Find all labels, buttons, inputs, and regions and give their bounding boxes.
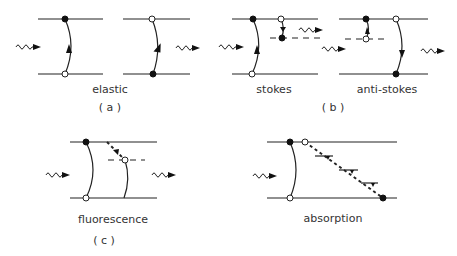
- transition-curve: [152, 19, 158, 74]
- open-state-dot: [149, 16, 155, 22]
- incoming-photon-wave-icon: [219, 44, 244, 50]
- outgoing-photon-wave-icon: [176, 45, 200, 51]
- anti-stokes-diagram: [322, 16, 445, 77]
- outgoing-photon-wave-icon: [152, 172, 176, 178]
- arrow-down-icon: [113, 149, 119, 155]
- filled-state-dot: [380, 195, 386, 201]
- stokes-diagram: [219, 16, 323, 77]
- open-state-dot: [122, 157, 128, 163]
- filled-state-dot: [279, 35, 285, 41]
- phonon-step-2: [339, 170, 358, 174]
- filled-state-dot: [62, 16, 68, 22]
- arrow-down-icon: [399, 50, 405, 58]
- transition-curve: [65, 19, 71, 74]
- open-state-dot: [62, 71, 68, 77]
- incoming-photon-wave-icon: [253, 173, 277, 179]
- stokes-label: stokes: [256, 83, 292, 96]
- filled-state-dot: [363, 16, 369, 22]
- incoming-photon-wave-icon: [16, 44, 41, 50]
- scattering-diagram-figure: elastic ( a ): [0, 0, 457, 256]
- emission-curve: [124, 160, 128, 198]
- filled-state-dot: [83, 139, 89, 145]
- absorption-diagram: [253, 139, 397, 201]
- panel-a-tag: ( a ): [99, 101, 121, 114]
- open-state-dot: [287, 195, 293, 201]
- incoming-photon-wave-icon: [46, 172, 70, 178]
- arrow-up-icon: [365, 27, 370, 34]
- outgoing-photon-wave-icon: [299, 27, 323, 33]
- incoming-photon-wave-icon: [322, 46, 346, 52]
- filled-state-dot: [150, 71, 156, 77]
- open-state-dot: [393, 16, 399, 22]
- filled-state-dot: [250, 16, 256, 22]
- open-state-dot: [302, 139, 308, 145]
- panel-b-tag: ( b ): [322, 101, 345, 114]
- filled-state-dot: [393, 71, 399, 77]
- elastic-label: elastic: [92, 83, 128, 96]
- open-state-dot: [249, 71, 255, 77]
- elastic-emission-diagram: [123, 16, 200, 77]
- open-state-dot: [83, 195, 89, 201]
- fluorescence-diagram: [46, 139, 176, 201]
- fluorescence-label: fluorescence: [78, 213, 148, 226]
- elastic-absorption-diagram: [16, 16, 103, 77]
- arrow-down-icon: [280, 27, 286, 32]
- absorption-label: absorption: [304, 212, 363, 225]
- filled-state-dot: [287, 139, 293, 145]
- excitation-curve: [86, 142, 93, 198]
- transition-curve: [252, 19, 259, 74]
- panel-c-tag: ( c ): [93, 234, 115, 247]
- excitation-curve: [290, 142, 296, 198]
- open-state-dot: [278, 16, 284, 22]
- anti-stokes-label: anti-stokes: [357, 83, 418, 96]
- open-state-dot: [363, 36, 369, 42]
- outgoing-photon-wave-icon: [421, 48, 445, 54]
- transition-curve: [396, 19, 402, 74]
